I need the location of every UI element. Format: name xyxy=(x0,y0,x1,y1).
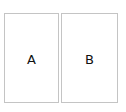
panel-b-label: B xyxy=(85,53,94,66)
panel-a: A xyxy=(4,13,59,103)
panel-b: B xyxy=(61,13,118,103)
panel-a-label: A xyxy=(27,53,36,66)
